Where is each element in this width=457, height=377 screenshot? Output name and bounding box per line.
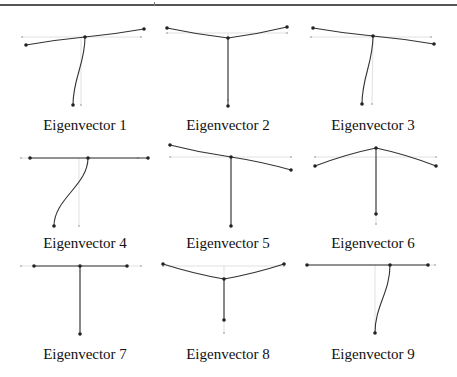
rest-node-dot <box>310 36 312 38</box>
rest-node-dot <box>140 265 142 267</box>
rest-node-dot <box>435 156 437 158</box>
panel-eigenvector-7 <box>20 264 142 336</box>
node-dot <box>52 224 56 228</box>
node-dot <box>432 42 436 46</box>
node-dot <box>142 27 146 31</box>
rest-node-dot <box>140 36 142 38</box>
node-dot <box>146 156 150 160</box>
panel-eigenvector-8 <box>161 262 286 334</box>
panel-eigenvector-9 <box>305 263 436 335</box>
deformed-beam <box>167 27 287 38</box>
caption-eigenvector-3: Eigenvector 3 <box>298 117 448 133</box>
node-dot <box>282 262 286 266</box>
node-dot <box>229 155 233 159</box>
node-dot <box>434 164 438 168</box>
caption-eigenvector-8: Eigenvector 8 <box>153 346 303 362</box>
panel-eigenvector-1 <box>21 27 146 107</box>
node-dot <box>374 146 378 150</box>
deformed-column <box>73 37 85 105</box>
node-dot <box>24 43 28 47</box>
node-dot <box>168 143 172 147</box>
node-dot <box>222 277 226 281</box>
rest-node-dot <box>21 36 23 38</box>
rest-node-dot <box>223 332 225 334</box>
deformed-column <box>362 36 373 104</box>
node-dot <box>125 264 129 268</box>
panel-eigenvector-6 <box>313 146 438 225</box>
node-dot <box>78 332 82 336</box>
panel-eigenvector-4 <box>20 156 150 228</box>
rest-node-dot <box>434 264 436 266</box>
node-dot <box>226 36 230 40</box>
node-dot <box>426 263 430 267</box>
node-dot <box>165 26 169 30</box>
node-dot <box>32 264 36 268</box>
node-dot <box>289 168 293 172</box>
node-dot <box>305 263 309 267</box>
rest-node-dot <box>375 223 377 225</box>
panel-eigenvector-3 <box>310 26 436 106</box>
node-dot <box>71 103 75 107</box>
rest-node-dot <box>166 32 168 34</box>
rest-node-dot <box>286 32 288 34</box>
node-dot <box>388 263 392 267</box>
caption-eigenvector-9: Eigenvector 9 <box>298 346 448 362</box>
caption-eigenvector-5: Eigenvector 5 <box>153 235 303 251</box>
node-dot <box>371 34 375 38</box>
rest-node-dot <box>430 36 432 38</box>
panel-eigenvector-5 <box>168 143 293 228</box>
caption-eigenvector-1: Eigenvector 1 <box>10 117 160 133</box>
eigenvector-diagram-grid <box>0 0 457 377</box>
caption-eigenvector-2: Eigenvector 2 <box>153 117 303 133</box>
deformed-column <box>54 158 88 226</box>
deformed-column <box>375 265 390 333</box>
rest-node-dot <box>169 156 171 158</box>
rest-node-dot <box>20 157 22 159</box>
panel-eigenvector-2 <box>165 25 289 108</box>
rest-node-dot <box>78 225 80 227</box>
node-dot <box>374 212 378 216</box>
rest-node-dot <box>371 103 373 105</box>
node-dot <box>78 264 82 268</box>
node-dot <box>83 35 87 39</box>
rest-node-dot <box>290 156 292 158</box>
node-dot <box>28 156 32 160</box>
node-dot <box>311 26 315 30</box>
rest-node-dot <box>20 265 22 267</box>
caption-eigenvector-6: Eigenvector 6 <box>298 235 448 251</box>
caption-eigenvector-7: Eigenvector 7 <box>10 346 160 362</box>
rest-node-dot <box>314 156 316 158</box>
node-dot <box>285 25 289 29</box>
node-dot <box>161 262 165 266</box>
node-dot <box>222 318 226 322</box>
node-dot <box>86 156 90 160</box>
node-dot <box>313 164 317 168</box>
node-dot <box>360 102 364 106</box>
caption-eigenvector-4: Eigenvector 4 <box>10 235 160 251</box>
node-dot <box>229 224 233 228</box>
node-dot <box>373 331 377 335</box>
rest-node-dot <box>80 104 82 106</box>
node-dot <box>226 104 230 108</box>
